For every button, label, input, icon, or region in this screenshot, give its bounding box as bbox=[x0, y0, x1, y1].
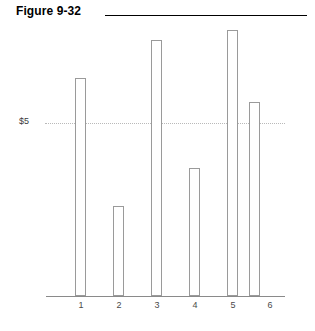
bar-1 bbox=[75, 78, 86, 296]
bar-4 bbox=[189, 168, 200, 296]
bar-6 bbox=[249, 102, 260, 296]
figure-panel: Figure 9-32 $5 1 2 3 4 5 6 bbox=[0, 0, 315, 331]
x-axis-line bbox=[46, 296, 285, 297]
x-tick-label-4: 4 bbox=[187, 300, 203, 310]
x-tick-label-3: 3 bbox=[149, 300, 165, 310]
bar-chart-plot-area: $5 1 2 3 4 5 6 bbox=[0, 0, 315, 331]
x-tick-label-5: 5 bbox=[225, 300, 241, 310]
x-tick-label-6: 6 bbox=[262, 300, 278, 310]
y-axis-tick-label-5: $5 bbox=[19, 116, 29, 126]
bar-3 bbox=[151, 40, 162, 296]
x-tick-label-2: 2 bbox=[111, 300, 127, 310]
bar-5 bbox=[227, 30, 238, 296]
x-tick-label-1: 1 bbox=[73, 300, 89, 310]
bar-2 bbox=[113, 206, 124, 296]
